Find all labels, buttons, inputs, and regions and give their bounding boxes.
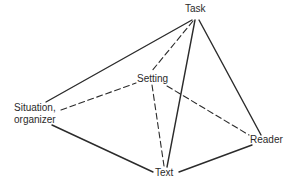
diagram-edges: [0, 0, 292, 189]
edge-setting-reader: [167, 86, 249, 135]
node-task: Task: [185, 3, 206, 15]
node-text: Text: [155, 167, 173, 179]
node-reader: Reader: [250, 134, 283, 146]
edge-text-reader: [179, 145, 252, 172]
node-setting: Setting: [137, 73, 168, 85]
edge-task-reader: [199, 20, 261, 135]
node-situation-organizer: Situation, organizer: [14, 102, 56, 126]
edge-task-text: [167, 20, 195, 167]
edge-setting-text: [152, 85, 164, 166]
edge-situation-text: [52, 125, 153, 172]
pyramid-diagram: Task Setting Situation, organizer Reader…: [0, 0, 292, 189]
